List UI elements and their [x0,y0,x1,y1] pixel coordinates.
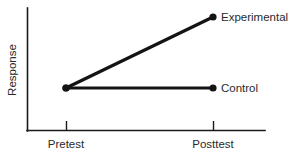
series-label-experimental: Experimental [221,11,288,23]
y-axis-title: Response [6,44,18,96]
x-tick-label-pretest: Pretest [48,138,85,150]
experimental-point-pretest [62,84,69,91]
chart-canvas: Experimental Control Pretest Posttest Re… [0,0,293,158]
experimental-line [66,17,213,88]
control-point-posttest [209,84,216,91]
experimental-point-posttest [209,13,216,20]
axes-group [27,8,265,131]
x-tick-label-posttest: Posttest [192,138,234,150]
series-label-control: Control [221,82,258,94]
series-experimental [62,13,216,91]
series-control [62,84,216,91]
x-axis-ticks [67,121,214,130]
line-chart-figure: Experimental Control Pretest Posttest Re… [0,0,293,158]
